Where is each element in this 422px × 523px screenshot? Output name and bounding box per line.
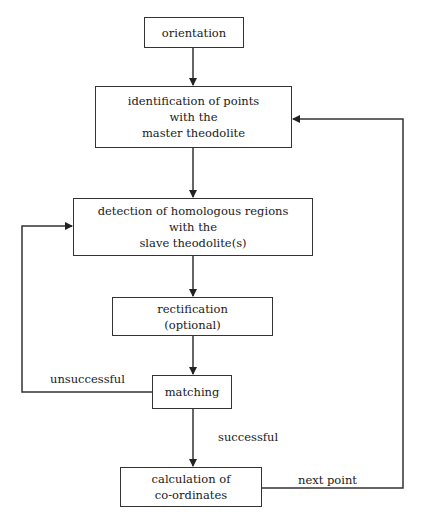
node-matching: matching — [152, 375, 232, 409]
node-orientation-line: orientation — [162, 25, 226, 41]
node-calculation-line: calculation of — [152, 471, 231, 487]
node-detection-line: detection of homologous regions — [98, 203, 289, 219]
node-identification-line: master theodolite — [142, 125, 245, 141]
node-rectification-line: (optional) — [164, 317, 220, 333]
edge-label-next-point: next point — [298, 473, 357, 487]
node-identification: identification of points with the master… — [95, 86, 292, 148]
arrow-next-point-loop — [262, 119, 403, 488]
edge-label-unsuccessful: unsuccessful — [50, 372, 125, 386]
node-matching-line: matching — [165, 384, 220, 400]
node-identification-line: with the — [169, 109, 217, 125]
node-calculation-line: co-ordinates — [155, 487, 227, 503]
node-identification-line: identification of points — [128, 93, 260, 109]
node-detection: detection of homologous regions with the… — [73, 198, 313, 256]
node-rectification-line: rectification — [157, 301, 228, 317]
edge-label-successful: successful — [218, 430, 278, 444]
node-detection-line: slave theodolite(s) — [139, 235, 246, 251]
node-calculation: calculation of co-ordinates — [120, 467, 262, 507]
node-orientation: orientation — [144, 17, 244, 48]
node-rectification: rectification (optional) — [112, 297, 273, 336]
node-detection-line: with the — [169, 219, 217, 235]
flow-connectors — [0, 0, 422, 523]
